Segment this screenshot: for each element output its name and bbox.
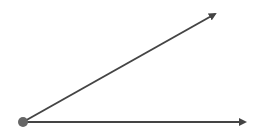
angle-diagram (0, 0, 260, 134)
upper-ray (23, 14, 215, 122)
vertex-point (18, 117, 28, 127)
